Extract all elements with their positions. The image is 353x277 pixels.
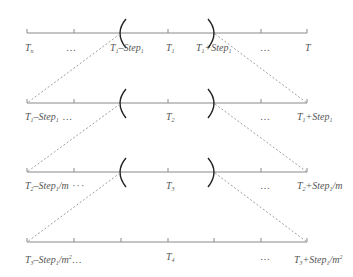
label-row2-left: T1–Step1 … xyxy=(25,111,73,126)
label-row1-dots-right: … xyxy=(260,42,271,54)
label-row1-center: T1 xyxy=(166,42,175,57)
label-row3-center: T3 xyxy=(166,180,175,195)
label-row1-left: Tn xyxy=(25,42,34,57)
label-row2-center: T2 xyxy=(166,111,175,126)
label-row2-dots-right: … xyxy=(260,111,271,123)
axis-row-4 xyxy=(27,238,307,242)
label-row4-dots-right: … xyxy=(260,251,271,263)
axis-row-2 xyxy=(27,99,307,103)
label-row2-right: T1+Step1 xyxy=(297,111,333,126)
label-row1-paren-right: T1+Step1 xyxy=(196,42,232,57)
label-row1-paren-left: T1–Step1 xyxy=(110,42,144,57)
label-row1-right: T xyxy=(305,42,311,54)
axis-row-3 xyxy=(27,168,307,172)
label-row3-right: T2+Step1/m xyxy=(297,180,343,195)
label-row4-left: T3–Step1/m2… xyxy=(25,251,83,269)
label-row3-left: T2–Step1/m ··· xyxy=(25,180,85,195)
zoom-projection-lines xyxy=(27,34,307,242)
label-row4-center: T4 xyxy=(166,251,175,266)
axis-row-1 xyxy=(27,29,307,33)
label-row1-dots-left: … xyxy=(66,42,77,54)
zoom-interval-diagram xyxy=(0,0,353,277)
label-row3-dots-right: … xyxy=(260,180,271,192)
label-row4-right: T3+Step1/m2 xyxy=(294,251,343,269)
